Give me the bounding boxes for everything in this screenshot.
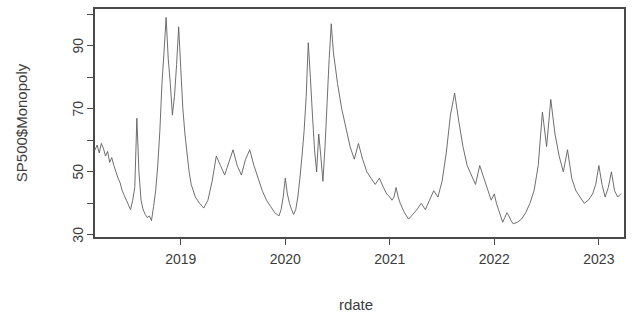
y-tick-label: 90 <box>70 38 86 54</box>
x-tick-label: 2022 <box>479 251 510 267</box>
x-tick-label: 2019 <box>165 251 196 267</box>
x-tick-label: 2023 <box>583 251 614 267</box>
y-tick-label: 50 <box>70 164 86 180</box>
x-axis-title: rdate <box>339 296 373 313</box>
r-plot-canvas: 30507090 20192020202120222023 SP500$Mono… <box>0 0 636 319</box>
y-axis-title: SP500$Monopoly <box>13 63 30 182</box>
chart-background <box>0 0 636 319</box>
x-tick-label: 2021 <box>374 251 405 267</box>
x-tick-label: 2020 <box>270 251 301 267</box>
y-tick-label: 70 <box>70 101 86 117</box>
time-series-chart: 30507090 20192020202120222023 SP500$Mono… <box>0 0 636 319</box>
y-tick-label: 30 <box>70 227 86 243</box>
